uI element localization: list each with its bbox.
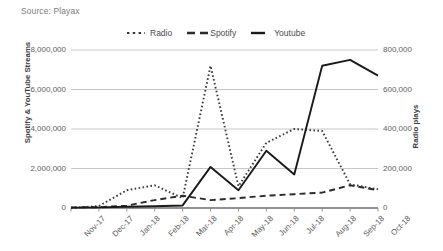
plot-area xyxy=(0,0,443,251)
y-axis-tick-label-left: 6,000,000 xyxy=(0,85,66,94)
y-axis-tick-label-right: 200,000 xyxy=(383,164,412,173)
y-axis-tick-label-left: 4,000,000 xyxy=(0,124,66,133)
y-axis-tick-label-right: 400,000 xyxy=(383,124,412,133)
y-axis-tick-label-left: 2,000,000 xyxy=(0,164,66,173)
y-axis-tick-label-left: 8,000,000 xyxy=(0,45,66,54)
y-axis-tick-label-right: 600,000 xyxy=(383,85,412,94)
y-axis-tick-label-left: 0 xyxy=(0,203,66,212)
y-axis-tick-label-right: 800,000 xyxy=(383,45,412,54)
y-axis-tick-label-right: 0 xyxy=(383,203,387,212)
series-line-radio xyxy=(71,66,378,208)
series-line-youtube xyxy=(71,60,378,208)
chart-container: Source: Playax Radio Spotify Youtube Spo… xyxy=(0,0,443,251)
